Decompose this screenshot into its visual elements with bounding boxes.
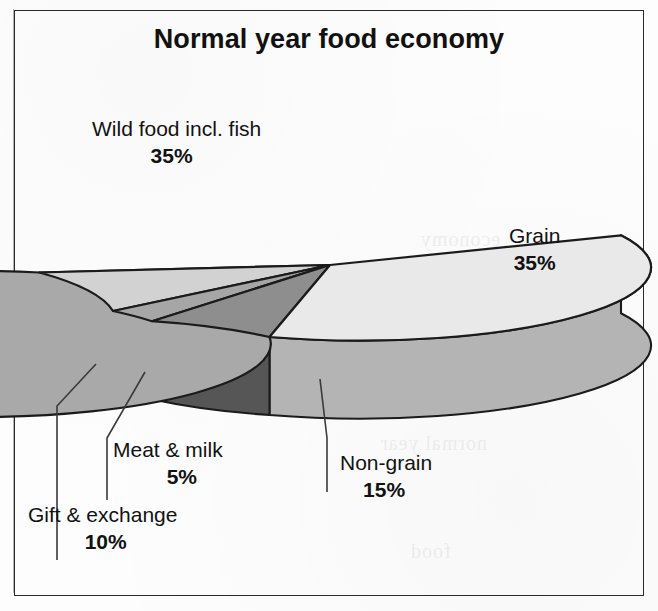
label-meat-milk: Meat & milk 5% <box>113 437 223 491</box>
label-wild-food-category: Wild food incl. fish <box>92 117 261 140</box>
label-grain-percent: 35% <box>509 250 560 277</box>
label-wild-food: Wild food incl. fish 35% <box>92 116 261 170</box>
label-non-grain-category: Non-grain <box>340 451 432 474</box>
label-grain-category: Grain <box>509 224 560 247</box>
label-gift-exchange-category: Gift & exchange <box>28 503 177 526</box>
label-wild-food-percent: 35% <box>82 143 261 170</box>
label-meat-milk-category: Meat & milk <box>113 438 223 461</box>
label-non-grain-percent: 15% <box>336 477 432 504</box>
label-meat-milk-percent: 5% <box>141 464 223 491</box>
label-gift-exchange-percent: 10% <box>34 529 177 556</box>
label-non-grain: Non-grain 15% <box>340 450 432 504</box>
pie-chart-figure: economy normal year food Normal year foo… <box>0 0 658 611</box>
label-gift-exchange: Gift & exchange 10% <box>28 502 177 556</box>
label-grain: Grain 35% <box>509 223 560 277</box>
